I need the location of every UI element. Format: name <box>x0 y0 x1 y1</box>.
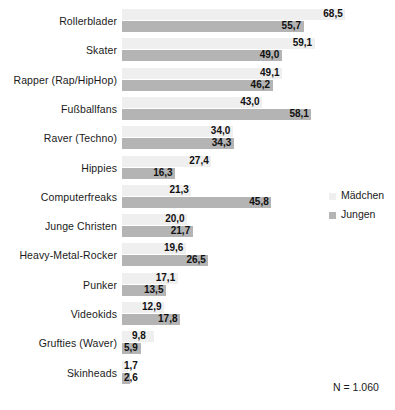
chart-row: Raver (Techno)34,034,3 <box>0 125 395 151</box>
bar-value-label: 58,1 <box>289 108 308 119</box>
bar-value-label: 13,5 <box>144 284 163 295</box>
bar-value-label: 49,1 <box>260 67 279 78</box>
chart-row: Grufties (Waver)9,85,9 <box>0 330 395 356</box>
legend-label-jungen: Jungen <box>341 205 375 224</box>
bar-value-label: 46,2 <box>251 79 270 90</box>
chart-row: Heavy-Metal-Rocker19,626,5 <box>0 242 395 268</box>
chart-legend: Mädchen Jungen <box>329 186 395 224</box>
bar-jungen <box>122 21 304 32</box>
bar-value-label: 21,7 <box>171 225 190 236</box>
category-label: Videokids <box>0 308 117 320</box>
chart-row: Hippies27,416,3 <box>0 155 395 181</box>
legend-label-maedchen: Mädchen <box>341 186 384 205</box>
bar-value-label: 68,5 <box>323 8 342 19</box>
bar-value-label: 26,5 <box>186 254 205 265</box>
bar-value-label: 5,9 <box>124 342 138 353</box>
legend-swatch-jungen <box>329 212 336 219</box>
bar-value-label: 2,6 <box>124 372 138 383</box>
chart-row: Skater59,149,0 <box>0 37 395 63</box>
category-label: Rapper (Rap/HipHop) <box>0 74 117 86</box>
legend-item-jungen: Jungen <box>329 205 395 224</box>
bar-jungen <box>122 109 311 120</box>
bar-value-label: 20,0 <box>165 213 184 224</box>
bar-maedchen <box>122 9 345 20</box>
category-label: Fußballfans <box>0 103 117 115</box>
category-label: Rollerblader <box>0 15 117 27</box>
sample-size-note: N = 1.060 <box>333 381 379 393</box>
bar-jungen <box>122 50 282 61</box>
chart-row: Fußballfans43,058,1 <box>0 96 395 122</box>
bar-value-label: 34,0 <box>211 125 230 136</box>
bar-value-label: 59,1 <box>293 37 312 48</box>
bar-value-label: 55,7 <box>282 20 301 31</box>
chart-row: Videokids12,917,8 <box>0 301 395 327</box>
bar-maedchen <box>122 68 282 79</box>
bar-value-label: 45,8 <box>249 196 268 207</box>
bar-value-label: 21,3 <box>169 184 188 195</box>
category-label: Grufties (Waver) <box>0 337 117 349</box>
bar-value-label: 17,8 <box>158 313 177 324</box>
category-label: Hippies <box>0 162 117 174</box>
chart-row: Punker17,113,5 <box>0 272 395 298</box>
bar-value-label: 1,7 <box>124 360 138 371</box>
bar-value-label: 9,8 <box>132 330 146 341</box>
category-label: Skinheads <box>0 367 117 379</box>
chart-row: Rollerblader68,555,7 <box>0 8 395 34</box>
legend-swatch-maedchen <box>329 193 336 200</box>
legend-item-maedchen: Mädchen <box>329 186 395 205</box>
category-label: Raver (Techno) <box>0 132 117 144</box>
bar-value-label: 27,4 <box>189 155 208 166</box>
bar-value-label: 17,1 <box>156 272 175 283</box>
bar-maedchen <box>122 38 315 49</box>
bar-value-label: 43,0 <box>240 96 259 107</box>
bar-value-label: 16,3 <box>153 167 172 178</box>
bar-value-label: 49,0 <box>260 49 279 60</box>
category-label: Heavy-Metal-Rocker <box>0 249 117 261</box>
category-label: Computerfreaks <box>0 191 117 203</box>
bar-value-label: 12,9 <box>142 301 161 312</box>
category-label: Skater <box>0 44 117 56</box>
category-label: Punker <box>0 279 117 291</box>
bar-value-label: 19,6 <box>164 242 183 253</box>
category-label: Junge Christen <box>0 220 117 232</box>
chart-row: Rapper (Rap/HipHop)49,146,2 <box>0 67 395 93</box>
bar-value-label: 34,3 <box>212 137 231 148</box>
